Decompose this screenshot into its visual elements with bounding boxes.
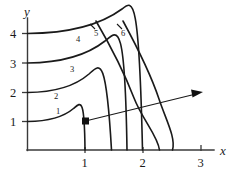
curve-label-5: 5: [94, 28, 98, 38]
y-tick-label-3: 3: [10, 57, 16, 71]
curve-label-1: 1: [56, 106, 60, 116]
contour-curve-6-arc: [123, 21, 173, 150]
y-tick-label-2: 2: [10, 86, 16, 100]
y-tick-label-1: 1: [10, 115, 16, 129]
y-tick-labels-group: 1 2 3 4: [10, 27, 17, 129]
y-tick-label-4: 4: [10, 27, 17, 41]
curve-label-2: 2: [54, 91, 58, 101]
x-tick-labels-group: 1 2 3: [82, 156, 204, 170]
curve-label-4: 4: [76, 34, 81, 44]
gradient-arrow-head: [191, 90, 203, 98]
plot-canvas: 1 2 3 4 5 6 1 2 3 4 1 2 3 y x: [0, 0, 238, 179]
contour-curve-2-arc: [28, 68, 112, 150]
contour-plot-figure: 1 2 3 4 5 6 1 2 3 4 1 2 3 y x: [0, 0, 238, 179]
y-axis-label: y: [22, 4, 30, 19]
curve-label-6: 6: [121, 28, 125, 38]
curve-labels-group: 1 2 3 4 5 6: [54, 28, 125, 116]
gradient-base-point-marker: [82, 118, 89, 125]
x-axis-label: x: [219, 143, 226, 158]
x-tick-label-3: 3: [198, 156, 204, 170]
contour-curves-group: [28, 5, 174, 150]
x-tick-label-1: 1: [82, 156, 88, 170]
x-tick-label-2: 2: [140, 156, 146, 170]
curve-label-3: 3: [70, 64, 74, 74]
